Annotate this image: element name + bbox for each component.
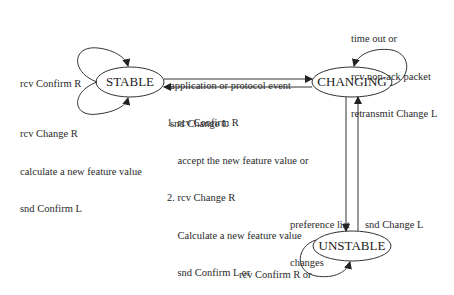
label-line: snd Confirm L xyxy=(20,203,142,216)
label-line: Calculate a new feature value xyxy=(167,230,308,243)
label-line: rcv Confirm R xyxy=(20,78,81,91)
label-line: application or protocol event xyxy=(170,80,291,93)
label-line: calculate a new feature value xyxy=(20,166,142,179)
label-line: preference list xyxy=(290,219,350,232)
label-line: rcv Change R xyxy=(20,128,142,141)
label-line: snd Change L xyxy=(365,219,423,232)
stable-self-bottom-label: rcv Change R calculate a new feature val… xyxy=(20,103,142,228)
changing-self-label: time out or rcv non-ack packet retransmi… xyxy=(351,8,437,133)
label-line: rcv non-ack packet xyxy=(351,71,437,84)
label-line: 1. rcv Confirm R xyxy=(167,117,308,130)
label-line: accept the new feature value or xyxy=(167,155,308,168)
label-line: rcv Confirm R or xyxy=(239,269,312,282)
label-line: retransmit Change L xyxy=(351,108,437,121)
unstable-self-label: rcv Confirm R or rcv Change R xyxy=(239,244,312,295)
state-stable-label: STABLE xyxy=(96,75,164,89)
unstable-to-changing-label: snd Change L xyxy=(365,194,423,244)
label-line: 2. rcv Change R xyxy=(167,192,308,205)
stable-self-top-label: rcv Confirm R xyxy=(20,53,81,103)
label-line: time out or xyxy=(351,33,437,46)
